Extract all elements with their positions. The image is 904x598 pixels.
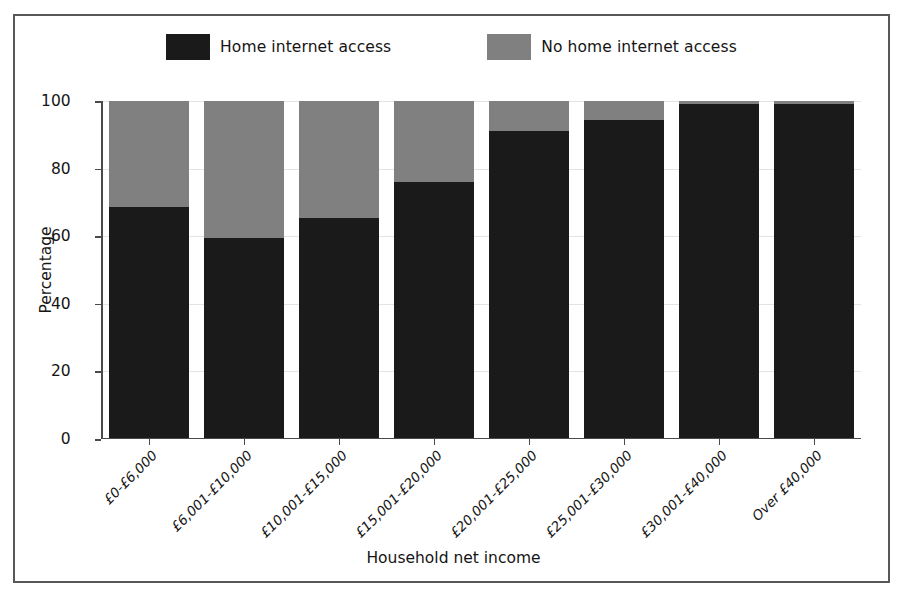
- bar-segment-no-home-internet-access: [299, 101, 379, 218]
- bar-segment-home-internet-access: [489, 131, 569, 439]
- legend-swatch-no-home-internet-access: [487, 34, 531, 60]
- bar-segment-no-home-internet-access: [204, 101, 284, 238]
- bar-group: [584, 101, 664, 439]
- chart-legend: Home internet access No home internet ac…: [15, 30, 888, 64]
- x-tick-mark: [529, 439, 531, 445]
- bar-segment-home-internet-access: [109, 207, 189, 439]
- y-tick-mark: [95, 371, 101, 373]
- bar-group: [774, 101, 854, 439]
- bar-group: [679, 101, 759, 439]
- x-tick-mark: [244, 439, 246, 445]
- legend-label-no-home-internet-access: No home internet access: [541, 38, 737, 56]
- bar-segment-no-home-internet-access: [109, 101, 189, 207]
- x-axis-title: Household net income: [15, 549, 892, 567]
- legend-entry-home-internet-access: Home internet access: [166, 34, 391, 60]
- legend-label-home-internet-access: Home internet access: [220, 38, 391, 56]
- y-tick-mark: [95, 439, 101, 441]
- bar-segment-no-home-internet-access: [489, 101, 569, 131]
- y-tick-mark: [95, 236, 101, 238]
- plot-area-wrapper: 020406080100: [101, 101, 861, 439]
- x-tick-mark: [624, 439, 626, 445]
- bar-segment-no-home-internet-access: [394, 101, 474, 182]
- y-axis-title: Percentage: [37, 101, 59, 439]
- x-axis-line: [101, 438, 861, 440]
- bar-segment-home-internet-access: [394, 182, 474, 439]
- bar-segment-home-internet-access: [204, 238, 284, 439]
- y-tick-mark: [95, 304, 101, 306]
- y-tick-label: 60: [51, 227, 71, 245]
- y-tick-label: 100: [41, 92, 71, 110]
- bar-group: [109, 101, 189, 439]
- y-tick-label: 20: [51, 362, 71, 380]
- x-tick-mark: [434, 439, 436, 445]
- legend-swatch-home-internet-access: [166, 34, 210, 60]
- y-axis-line: [101, 101, 103, 439]
- bar-group: [489, 101, 569, 439]
- bar-segment-no-home-internet-access: [584, 101, 664, 120]
- y-axis-title-text: Percentage: [37, 101, 55, 439]
- y-tick-label: 40: [51, 295, 71, 313]
- bar-segment-home-internet-access: [679, 104, 759, 439]
- bar-segment-home-internet-access: [299, 218, 379, 439]
- y-tick-mark: [95, 101, 101, 103]
- bar-group: [299, 101, 379, 439]
- x-tick-mark: [339, 439, 341, 445]
- x-tick-mark: [719, 439, 721, 445]
- y-tick-label: 80: [51, 160, 71, 178]
- figure-frame: Home internet access No home internet ac…: [13, 14, 890, 583]
- legend-entry-no-home-internet-access: No home internet access: [487, 34, 737, 60]
- bar-segment-home-internet-access: [584, 120, 664, 439]
- plot-area: 020406080100: [101, 101, 861, 439]
- x-tick-mark: [149, 439, 151, 445]
- y-tick-label: 0: [61, 430, 71, 448]
- bar-group: [394, 101, 474, 439]
- y-tick-mark: [95, 169, 101, 171]
- bar-group: [204, 101, 284, 439]
- x-tick-mark: [814, 439, 816, 445]
- bar-segment-home-internet-access: [774, 104, 854, 439]
